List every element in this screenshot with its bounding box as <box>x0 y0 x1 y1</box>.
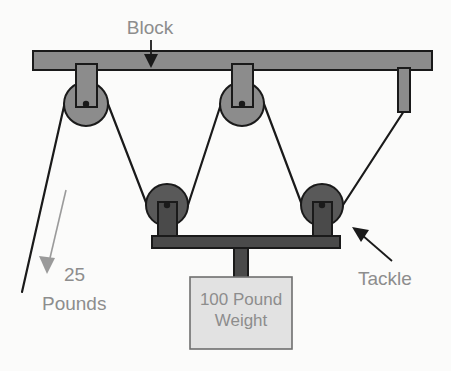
upper-pulley-right-axle <box>239 101 245 107</box>
weight-hanger-bar <box>234 248 248 281</box>
lower-beam-bar <box>152 236 340 248</box>
tackle-arrow-line <box>362 235 392 261</box>
force-annotation: 25 Pounds <box>39 190 106 314</box>
upper-pulley-right-bracket <box>232 64 253 107</box>
weight-box: 100 Pound Weight <box>190 277 292 349</box>
lower-beam-tackle <box>152 236 340 248</box>
tackle-label: Tackle <box>358 268 412 289</box>
rope-segment-1-to-3 <box>108 104 147 205</box>
rope-segment-3-to-2 <box>188 104 221 205</box>
block-label: Block <box>127 17 174 38</box>
diagram-canvas: 100 Pound Weight Block 25 Pounds Tackle <box>0 0 451 371</box>
force-unit-label: Pounds <box>42 293 106 314</box>
lower-pulley-right-axle <box>319 202 325 208</box>
upper-pulley-left <box>64 64 108 126</box>
weight-label-line2: Weight <box>215 311 268 330</box>
right-hanger-bar <box>398 68 410 112</box>
rope-anchor-segment <box>343 111 404 205</box>
lower-pulley-left <box>146 184 188 241</box>
lower-pulley-left-axle <box>164 202 170 208</box>
upper-pulley-left-axle <box>83 101 89 107</box>
weight-hanger-rod <box>234 248 248 281</box>
lower-pulley-right <box>301 184 343 241</box>
block-and-tackle-diagram: 100 Pound Weight Block 25 Pounds Tackle <box>0 0 451 371</box>
upper-pulley-left-bracket <box>76 64 97 107</box>
force-arrow-line <box>50 190 66 258</box>
rope-segment-2-to-4 <box>264 104 302 205</box>
force-value-label: 25 <box>64 264 85 285</box>
weight-label-line1: 100 Pound <box>200 290 282 309</box>
tackle-annotation: Tackle <box>352 227 412 289</box>
force-arrow-head <box>39 256 55 274</box>
upper-pulley-right <box>220 64 264 126</box>
right-hanger-bracket <box>398 68 410 112</box>
